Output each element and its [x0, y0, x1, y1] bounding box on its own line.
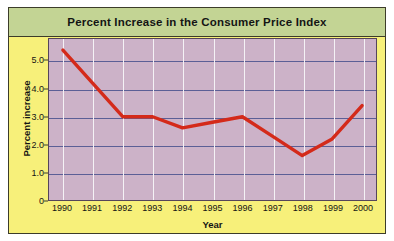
chart-figure: Percent Increase in the Consumer Price I… [0, 0, 394, 241]
x-axis-label: Year [48, 219, 377, 230]
x-tick-label: 1998 [293, 203, 313, 213]
plot-area [48, 38, 377, 201]
x-tick-label: 1992 [112, 203, 132, 213]
y-axis-ticks: 01.02.03.04.05.0 [8, 38, 44, 201]
x-tick-label: 1991 [82, 203, 102, 213]
y-tick-label: 5.0 [31, 55, 44, 65]
y-tick-label: 3.0 [31, 112, 44, 122]
x-tick-label: 1997 [263, 203, 283, 213]
x-tick-label: 1999 [323, 203, 343, 213]
series-line-chart [49, 39, 376, 200]
x-axis-ticks: 1990199119921993199419951996199719981999… [48, 203, 377, 217]
y-tick-label: 4.0 [31, 84, 44, 94]
y-tick-label: 1.0 [31, 168, 44, 178]
x-tick-label: 2000 [353, 203, 373, 213]
x-tick-label: 1993 [142, 203, 162, 213]
x-tick-label: 1995 [202, 203, 222, 213]
chart-title-band: Percent Increase in the Consumer Price I… [8, 7, 386, 37]
x-tick-label: 1996 [233, 203, 253, 213]
x-tick-label: 1994 [172, 203, 192, 213]
chart-title: Percent Increase in the Consumer Price I… [67, 16, 326, 28]
series-polyline [63, 50, 362, 155]
y-tick-label: 2.0 [31, 140, 44, 150]
x-tick-label: 1990 [52, 203, 72, 213]
